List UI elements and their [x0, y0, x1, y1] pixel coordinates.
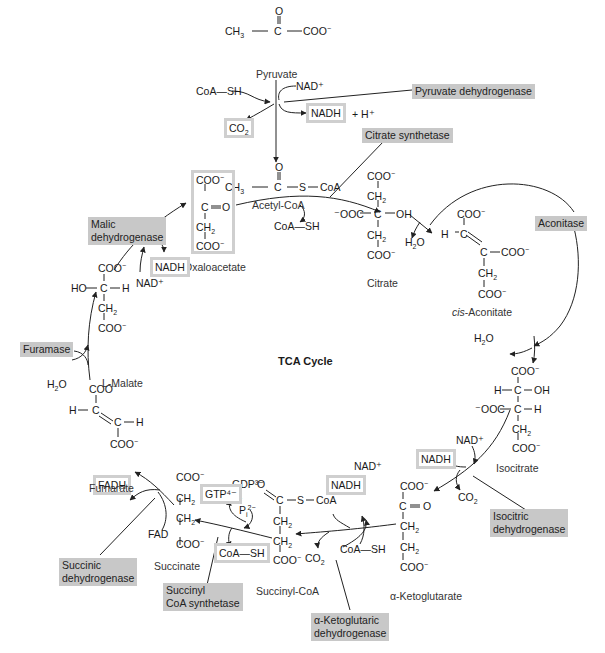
- diagram-title: TCA Cycle: [278, 355, 333, 367]
- enzyme-line-2: dehydrogenase: [62, 572, 134, 585]
- succ-row1: COO−: [176, 471, 204, 483]
- cis-row1: COO−: [457, 208, 485, 220]
- l-malate-label: L-Malate: [102, 377, 143, 389]
- citrate-row2: CH2: [367, 190, 386, 202]
- nad-plus-pyruvate: NAD⁺: [296, 80, 324, 92]
- enzyme-alpha-ketoglutaric-dehydrogenase: α-Ketoglutaric dehydrogenase: [311, 613, 389, 641]
- iso-ch2: CH2: [512, 423, 531, 435]
- succ-ch2a: CH2: [176, 492, 195, 504]
- oxaloacetate-label: Oxaloacetate: [184, 261, 246, 273]
- enzyme-succinyl-coa-synthetase: Succinyl CoA synthetase: [163, 583, 243, 611]
- succ-row4: COO−: [176, 538, 204, 550]
- mal-ch2: CH2: [98, 302, 117, 314]
- enzyme-line-1: Malic: [91, 218, 163, 231]
- enzyme-line-1: α-Ketoglutaric: [314, 614, 386, 627]
- succinyl-coa-label: Succinyl-CoA: [256, 585, 319, 597]
- cis-c2: C: [480, 246, 488, 258]
- pyruvate-label: Pyruvate: [256, 68, 297, 80]
- iso-h: H: [494, 384, 502, 396]
- mal-h: H: [122, 282, 130, 294]
- pyruvate-formula: CH3: [225, 25, 244, 37]
- scoa-c: C: [276, 494, 284, 506]
- akg-row1: COO−: [400, 480, 428, 492]
- citrate-row1: COO−: [367, 170, 395, 182]
- acetyl-coa-label: Acetyl-CoA: [252, 199, 305, 211]
- co2-akg: CO2: [305, 552, 325, 564]
- nad-plus-isocitrate: NAD⁺: [456, 434, 484, 446]
- enzyme-line-2: dehydrogenase: [314, 627, 386, 640]
- pyruvate-carbon: C: [274, 25, 282, 37]
- alpha-ketoglutarate-label: α-Ketoglutarate: [390, 590, 462, 602]
- acetyl-sulfur: S: [299, 181, 306, 193]
- oaa-oxygen: O: [222, 201, 230, 213]
- enzyme-malic-dehydrogenase: Malic dehydrogenase: [88, 217, 166, 245]
- iso-c2: C: [514, 403, 522, 415]
- acetyl-carbon: C: [274, 181, 282, 193]
- fad: FAD: [148, 528, 168, 540]
- enzyme-citrate-synthetase: Citrate synthetase: [362, 128, 453, 143]
- enzyme-line-2: CoA synthetase: [166, 597, 240, 610]
- scoa-row5: COO−: [273, 554, 301, 566]
- enzyme-line-1: Succinic: [62, 559, 134, 572]
- iso-ooc: ⁻OOC: [475, 403, 505, 415]
- h2o-furamase: H2O: [47, 378, 67, 390]
- enzyme-line-1: Isocitric: [493, 510, 565, 523]
- akg-o: O: [423, 500, 431, 512]
- h2o-aconitate: H2O: [474, 332, 494, 344]
- oaa-row4: COO−: [196, 240, 224, 252]
- nad-plus-malate: NAD⁺: [136, 277, 164, 289]
- fumarate-label: Fumarate: [89, 482, 134, 494]
- citrate-row5: COO−: [367, 249, 395, 261]
- coa-sh-box: CoA—SH: [214, 543, 270, 563]
- cis-aconitate-label: cis-Aconitate: [452, 306, 512, 318]
- cis-row5: COO−: [478, 288, 506, 300]
- akg-row5: COO−: [400, 561, 428, 573]
- akg-ch2a: CH2: [400, 520, 419, 532]
- nadh-box-malate: NADH: [150, 257, 190, 277]
- cis-h: H: [441, 228, 449, 240]
- fum-row4: COO−: [110, 438, 138, 450]
- coa-sh-pyruvate: CoA—SH: [196, 85, 242, 97]
- mal-c: C: [100, 282, 108, 294]
- fum-h1: H: [69, 404, 77, 416]
- citrate-oh: OH: [396, 208, 412, 220]
- coa-sh-citrate: CoA—SH: [274, 220, 320, 232]
- mal-row4: COO−: [98, 322, 126, 334]
- aconitate-rest: -Aconitate: [465, 306, 512, 318]
- enzyme-pyruvate-dehydrogenase: Pyruvate dehydrogenase: [412, 84, 535, 99]
- h2o-citrate: H2O: [405, 236, 425, 248]
- acetyl-coa-group: CoA: [320, 181, 340, 193]
- fum-c1: C: [92, 404, 100, 416]
- enzyme-aconitase: Aconitase: [535, 216, 587, 231]
- oaa-row1: COO−: [196, 174, 224, 186]
- nad-plus-akg: NAD⁺: [354, 460, 382, 472]
- acetyl-oxygen: O: [275, 161, 283, 173]
- coa-sh-akg: CoA—SH: [340, 543, 386, 555]
- iso-row1: COO−: [511, 365, 539, 377]
- enzyme-succinic-dehydrogenase: Succinic dehydrogenase: [59, 558, 137, 586]
- scoa-ch2b: CH2: [273, 535, 292, 547]
- cis-ch2: CH2: [478, 267, 497, 279]
- citrate-label: Citrate: [367, 277, 398, 289]
- h-plus: + H⁺: [352, 108, 375, 120]
- iso-row5: COO−: [512, 442, 540, 454]
- nadh-box-isocitrate: NADH: [416, 449, 456, 469]
- cis-prefix: cis: [452, 306, 465, 318]
- enzyme-line-2: dehydrogenase: [91, 231, 163, 244]
- iso-oh: OH: [534, 384, 550, 396]
- pyruvate-oxygen: O: [275, 5, 283, 17]
- akg-c: C: [399, 500, 407, 512]
- scoa-ch2a: CH2: [273, 515, 292, 527]
- fum-h2: H: [136, 416, 144, 428]
- oaa-row2: C: [201, 201, 209, 213]
- scoa-s: S: [297, 494, 304, 506]
- nadh-box-pyruvate: NADH: [306, 103, 346, 123]
- enzyme-line-1: Succinyl: [166, 584, 240, 597]
- fum-c2: C: [114, 416, 122, 428]
- iso-c1: C: [514, 384, 522, 396]
- citrate-c: C: [374, 208, 382, 220]
- mal-row1: COO−: [98, 262, 126, 274]
- mal-ho: HO: [71, 282, 87, 294]
- succ-ch2b: CH2: [176, 512, 195, 524]
- pyruvate-carboxylate: COO−: [303, 25, 331, 37]
